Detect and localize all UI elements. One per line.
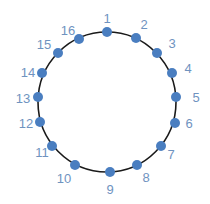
node-7 — [156, 141, 166, 151]
node-14 — [37, 68, 47, 78]
node-15 — [53, 48, 63, 58]
nodes-layer — [33, 27, 181, 177]
node-16 — [74, 34, 84, 44]
node-label-1: 1 — [103, 12, 110, 25]
node-label-4: 4 — [184, 62, 191, 75]
node-label-8: 8 — [142, 171, 149, 184]
node-12 — [35, 117, 45, 127]
node-3 — [152, 48, 162, 58]
node-label-10: 10 — [57, 172, 71, 185]
ring-diagram: 12345678910111213141516 — [0, 0, 210, 204]
node-13 — [33, 92, 43, 102]
node-label-3: 3 — [168, 37, 175, 50]
node-10 — [70, 160, 80, 170]
node-5 — [171, 92, 181, 102]
node-1 — [102, 27, 112, 37]
node-label-13: 13 — [16, 92, 30, 105]
node-label-2: 2 — [140, 18, 147, 31]
node-8 — [132, 160, 142, 170]
node-label-9: 9 — [106, 183, 113, 196]
node-label-15: 15 — [37, 38, 51, 51]
node-label-7: 7 — [167, 148, 174, 161]
node-6 — [170, 118, 180, 128]
node-label-11: 11 — [35, 146, 49, 159]
node-label-14: 14 — [21, 66, 35, 79]
node-label-5: 5 — [192, 91, 199, 104]
node-label-6: 6 — [185, 117, 192, 130]
node-2 — [131, 33, 141, 43]
ring-canvas — [0, 0, 210, 204]
node-label-16: 16 — [61, 24, 75, 37]
node-4 — [167, 68, 177, 78]
node-label-12: 12 — [19, 117, 33, 130]
node-9 — [105, 167, 115, 177]
